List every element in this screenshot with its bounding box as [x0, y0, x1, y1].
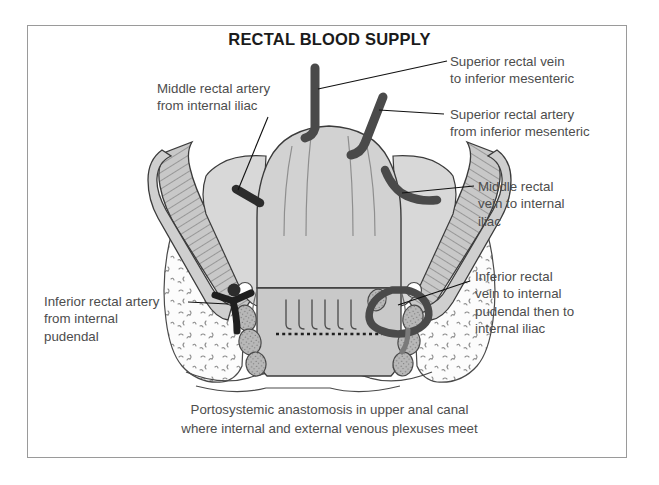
diagram-stage: RECTAL BLOOD SUPPLY Superior rectal vein… — [0, 0, 659, 485]
figure-caption: Portosystemic anastomosis in upper anal … — [0, 400, 659, 438]
label-middle-rectal-vein: Middle rectal vein to internal iliac — [478, 178, 564, 230]
leader-superior-rectal-vein — [318, 61, 447, 89]
label-middle-rectal-artery: Middle rectal artery from internal iliac — [157, 80, 270, 115]
inferior-rectal-artery-node — [228, 284, 241, 297]
label-inferior-rectal-artery: Inferior rectal artery from internal pud… — [44, 293, 159, 345]
label-inferior-rectal-vein: Inferior rectal vein to internal pudenda… — [475, 268, 574, 338]
rectum-ampulla — [257, 126, 401, 288]
label-superior-rectal-vein: Superior rectal vein to inferior mesente… — [450, 53, 574, 88]
leader-superior-rectal-artery — [379, 110, 444, 114]
perineal-skin-lower — [196, 386, 400, 392]
label-superior-rectal-artery: Superior rectal artery from inferior mes… — [450, 106, 590, 141]
page-title: RECTAL BLOOD SUPPLY — [0, 30, 659, 49]
superior-rectal-vein-vessel — [305, 68, 315, 138]
